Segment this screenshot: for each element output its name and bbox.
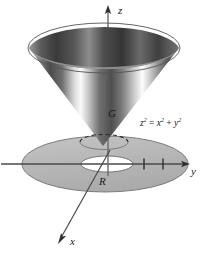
cone-figure: z y x G R z2 = x2 + y2 [0,0,203,253]
solid-label-G: G [108,108,116,119]
x-axis-label: x [70,236,75,247]
equation-plus: + [164,118,174,128]
y-axis-label: y [191,166,196,177]
cone-G-group [28,23,180,150]
equation-equals: = [147,118,157,128]
z-axis-label: z [118,5,122,16]
equation-term2-exponent: 2 [178,117,181,123]
region-label-R: R [99,176,106,187]
cone-equation-label: z2 = x2 + y2 [140,119,181,129]
